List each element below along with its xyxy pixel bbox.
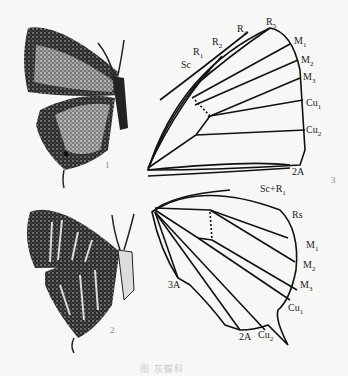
label-r4: R4 <box>237 24 247 37</box>
panel-number-3: 3 <box>331 175 336 185</box>
label-cu1: Cu1 <box>306 98 321 111</box>
label-3a: 3A <box>168 280 180 290</box>
label-r2: R2 <box>212 37 222 50</box>
label-m2-hindwing: M2 <box>303 260 315 273</box>
forewing-venation <box>148 28 305 176</box>
hindwing-venation <box>152 190 297 345</box>
label-rs: Rs <box>292 210 303 220</box>
label-m3-hindwing: M3 <box>300 280 312 293</box>
butterfly-1-illustration <box>24 27 128 188</box>
label-cu2: Cu2 <box>306 125 321 138</box>
butterfly-2-illustration <box>27 210 134 353</box>
label-cu1-hindwing: Cu1 <box>288 303 303 316</box>
panel-number-1: 1 <box>105 160 110 170</box>
label-m2: M2 <box>301 55 313 68</box>
label-r5: R5 <box>266 17 276 30</box>
label-m1: M1 <box>294 36 306 49</box>
label-2a-hindwing: 2A <box>239 332 251 342</box>
label-sc-r1: Sc+R1 <box>260 184 286 197</box>
figure-caption: 图 灰蝶科 <box>140 362 184 375</box>
label-2a-forewing: 2A <box>292 167 304 177</box>
panel-number-2: 2 <box>110 325 115 335</box>
label-r1: R1 <box>193 47 203 60</box>
label-m1-hindwing: M1 <box>306 240 318 253</box>
label-sc: Sc <box>181 60 191 70</box>
label-m3: M3 <box>303 72 315 85</box>
label-cu2-hindwing: Cu2 <box>258 330 273 343</box>
